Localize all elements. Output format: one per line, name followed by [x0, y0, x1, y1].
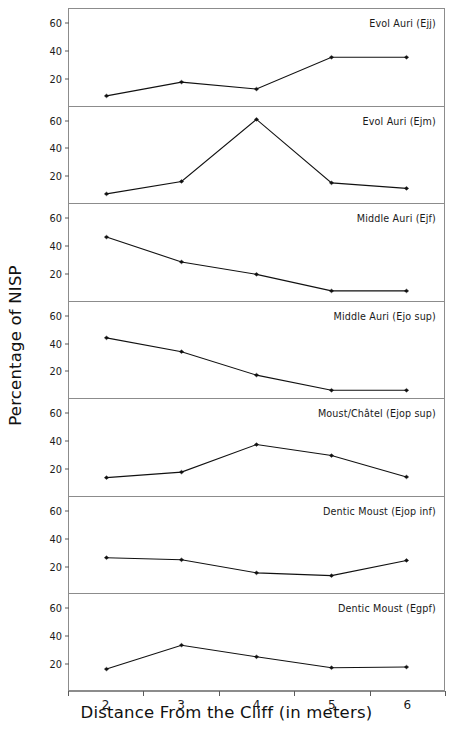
y-axis-tick: 40: [50, 533, 69, 544]
data-point-marker: [179, 80, 183, 84]
data-point-marker: [329, 289, 333, 293]
panel-stack: 204060Evol Auri (Ejj)204060Evol Auri (Ej…: [68, 8, 445, 691]
series-line: [107, 119, 407, 193]
y-axis-tick-label: 20: [50, 561, 65, 572]
data-point-marker: [254, 87, 258, 91]
panel-series-label: Middle Auri (Ejf): [357, 213, 436, 224]
y-axis-tick-label: 20: [50, 73, 65, 84]
y-axis-tick-label: 40: [50, 533, 65, 544]
y-axis-tick-label: 60: [50, 213, 65, 224]
x-axis-title: Distance From the Cliff (in meters): [0, 703, 453, 722]
y-axis-tick: 20: [50, 73, 69, 84]
y-axis-tick: 60: [50, 408, 69, 419]
x-axis-line: [68, 691, 445, 692]
y-axis-tick-label: 40: [50, 45, 65, 56]
y-axis-title: Percentage of NISP: [0, 0, 30, 690]
data-point-marker: [179, 644, 183, 648]
chart-panel: 204060Evol Auri (Ejm): [68, 106, 445, 204]
x-axis-tick-mark: [445, 691, 446, 696]
data-point-marker: [404, 289, 408, 293]
y-axis-tick: 20: [50, 171, 69, 182]
y-axis-tick: 40: [50, 436, 69, 447]
y-axis-tick-label: 60: [50, 310, 65, 321]
chart-panel: 204060Middle Auri (Ejo sup): [68, 301, 445, 399]
y-axis-tick-label: 20: [50, 268, 65, 279]
y-axis-tick-label: 40: [50, 143, 65, 154]
y-axis-tick-label: 40: [50, 436, 65, 447]
y-axis-tick-label: 20: [50, 171, 65, 182]
y-axis-tick: 60: [50, 115, 69, 126]
y-axis-tick: 20: [50, 463, 69, 474]
y-axis-tick-label: 60: [50, 115, 65, 126]
panel-series-label: Evol Auri (Ejj): [369, 18, 436, 29]
y-axis-tick: 20: [50, 366, 69, 377]
data-point-marker: [254, 571, 258, 575]
panel-series-label: Dentic Moust (Ejop inf): [323, 506, 436, 517]
data-point-marker: [329, 574, 333, 578]
chart-panel: 204060Dentic Moust (Egpf): [68, 593, 445, 691]
panel-series-label: Moust/Châtel (Ejop sup): [318, 408, 436, 419]
series-line: [107, 237, 407, 291]
x-axis-tick-mark: [370, 691, 371, 696]
data-point-marker: [404, 666, 408, 670]
y-axis-tick: 40: [50, 45, 69, 56]
data-point-marker: [179, 558, 183, 562]
y-axis-tick: 60: [50, 310, 69, 321]
y-axis-tick: 60: [50, 603, 69, 614]
y-axis-tick-label: 40: [50, 338, 65, 349]
data-point-marker: [329, 666, 333, 670]
chart-panel: 204060Evol Auri (Ejj): [68, 8, 445, 106]
x-axis-tick-mark: [143, 691, 144, 696]
y-axis-tick-label: 40: [50, 240, 65, 251]
data-point-marker: [104, 336, 108, 340]
data-point-marker: [404, 388, 408, 392]
x-axis-tick-mark: [294, 691, 295, 696]
data-point-marker: [329, 454, 333, 458]
data-point-marker: [179, 349, 183, 353]
y-axis-tick-label: 20: [50, 659, 65, 670]
panel-series-label: Dentic Moust (Egpf): [338, 603, 436, 614]
data-point-marker: [179, 470, 183, 474]
y-axis-tick-label: 60: [50, 17, 65, 28]
y-axis-tick: 20: [50, 268, 69, 279]
panel-series-label: Middle Auri (Ejo sup): [334, 311, 437, 322]
data-point-marker: [404, 475, 408, 479]
chart-panel: 204060Moust/Châtel (Ejop sup): [68, 398, 445, 496]
y-axis-tick-label: 40: [50, 631, 65, 642]
y-axis-tick: 40: [50, 338, 69, 349]
y-axis-tick: 20: [50, 561, 69, 572]
y-axis-tick: 60: [50, 505, 69, 516]
y-axis-title-text: Percentage of NISP: [6, 265, 25, 425]
data-point-marker: [179, 260, 183, 264]
y-axis-tick: 60: [50, 213, 69, 224]
data-point-marker: [329, 388, 333, 392]
data-point-marker: [404, 558, 408, 562]
x-axis-tick-mark: [68, 691, 69, 696]
data-point-marker: [104, 235, 108, 239]
data-point-marker: [104, 192, 108, 196]
y-axis-tick: 40: [50, 240, 69, 251]
series-line: [107, 445, 407, 478]
data-point-marker: [404, 55, 408, 59]
data-point-marker: [104, 476, 108, 480]
y-axis-tick-label: 20: [50, 366, 65, 377]
y-axis-tick: 40: [50, 143, 69, 154]
y-axis-tick-label: 60: [50, 505, 65, 516]
y-axis-tick-label: 60: [50, 408, 65, 419]
data-point-marker: [404, 186, 408, 190]
panel-series-label: Evol Auri (Ejm): [363, 116, 436, 127]
data-point-marker: [254, 655, 258, 659]
data-point-marker: [104, 668, 108, 672]
figure-small-multiples-line-chart: Percentage of NISP 204060Evol Auri (Ejj)…: [0, 0, 453, 747]
chart-panel: 204060Middle Auri (Ejf): [68, 203, 445, 301]
y-axis-tick-label: 20: [50, 463, 65, 474]
data-point-marker: [104, 94, 108, 98]
data-point-marker: [254, 373, 258, 377]
y-axis-tick-label: 60: [50, 603, 65, 614]
y-axis-tick: 40: [50, 631, 69, 642]
data-point-marker: [254, 273, 258, 277]
chart-panel: 204060Dentic Moust (Ejop inf): [68, 496, 445, 594]
x-axis-tick-mark: [219, 691, 220, 696]
data-point-marker: [254, 443, 258, 447]
y-axis-tick: 20: [50, 659, 69, 670]
